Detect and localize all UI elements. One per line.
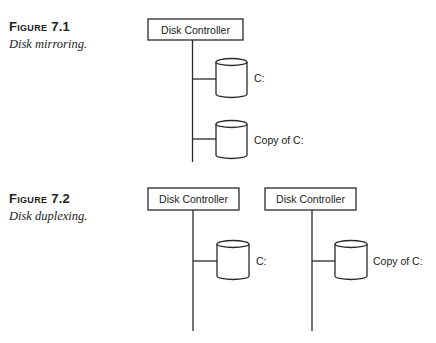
disk-cylinder-icon [217, 241, 249, 280]
disk-label: C: [254, 72, 265, 84]
figure-7-1-diagram: Disk Controller C: Copy of C: [148, 19, 304, 162]
disk-controller-label: Disk Controller [276, 193, 345, 205]
disk-controller-label: Disk Controller [159, 193, 228, 205]
disk-c: C: [193, 241, 267, 280]
disk-c: C: [193, 59, 265, 98]
disk-cylinder-icon [335, 241, 367, 280]
disk-copy-of-c: Copy of C: [312, 241, 423, 280]
disk-controller-label: Disk Controller [161, 24, 230, 36]
disk-controller-box: Disk Controller [148, 188, 239, 210]
disk-controller-box: Disk Controller [148, 19, 243, 40]
disk-cylinder-icon [216, 121, 247, 159]
disk-controller-box: Disk Controller [265, 188, 356, 210]
diagrams-canvas: Disk Controller C: Copy of C: [0, 0, 436, 343]
disk-cylinder-icon [216, 59, 247, 98]
disk-label: Copy of C: [373, 255, 423, 267]
figure-7-2-diagram: Disk Controller C: Disk Controller Copy [148, 188, 423, 331]
disk-label: C: [256, 255, 267, 267]
disk-label: Copy of C: [254, 134, 304, 146]
disk-copy-of-c: Copy of C: [193, 121, 304, 159]
